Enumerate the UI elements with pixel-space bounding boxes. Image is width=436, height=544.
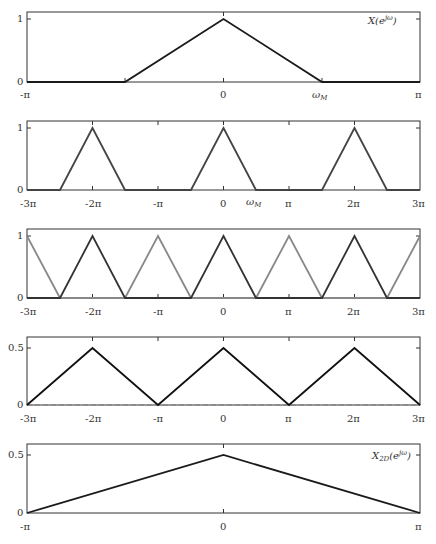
ytick-label: 0.5: [8, 342, 24, 353]
xtick-label: -π: [20, 89, 30, 100]
xtick-label-omega-m: ωM: [312, 89, 328, 102]
panel-1-original-spectrum: 1 0 -π 0 ωM π X(ejω): [17, 12, 422, 102]
xtick-label: 0: [220, 521, 226, 532]
figure: 1 0 -π 0 ωM π X(ejω) 1 0 -3π -2π -π 0 ωM…: [0, 0, 436, 544]
xtick-label: -π: [153, 413, 163, 424]
xtick-label: 0: [220, 306, 226, 317]
function-label: X(ejω): [367, 14, 397, 26]
xtick-label: -2π: [85, 306, 102, 317]
xtick-label: -3π: [20, 306, 37, 317]
original-spectrum-curve: [27, 236, 420, 298]
spectrum-curve: [27, 19, 420, 82]
xtick-label: 0: [220, 89, 226, 100]
xtick-label: -π: [153, 306, 163, 317]
xtick-label: π: [285, 198, 292, 209]
ytick-label: 0: [17, 292, 23, 303]
xtick-label: -3π: [20, 198, 37, 209]
xtick-label: π: [415, 89, 422, 100]
panel-4-downsampled-periodic: 0.5 0 -3π -2π -π 0 π 2π 3π: [8, 337, 425, 424]
ytick-label: 0: [17, 76, 23, 87]
xtick-label-omega-m: ωM: [246, 196, 262, 209]
panel-3-overlapping-spectra: 1 0 -3π -2π -π 0 π 2π 3π: [17, 229, 425, 317]
xtick-label: 0: [220, 198, 226, 209]
panel-2-periodic-spectrum: 1 0 -3π -2π -π 0 ωM π 2π 3π: [17, 121, 425, 209]
xtick-label: -3π: [20, 413, 37, 424]
ytick-label: 1: [17, 230, 23, 241]
ytick-label: 0: [17, 399, 23, 410]
spectrum-curve: [27, 348, 420, 405]
xtick-label: 3π: [412, 306, 425, 317]
spectrum-curve: [27, 128, 420, 190]
ytick-label: 0: [17, 507, 23, 518]
shifted-spectrum-curve: [27, 236, 420, 298]
ytick-label: 0: [17, 184, 23, 195]
panel-5-downsampled-spectrum: 0.5 0 -π 0 π X2D(ejω): [8, 444, 422, 532]
spectrum-curve: [27, 455, 420, 513]
ytick-label: 0.5: [8, 449, 24, 460]
ytick-label: 1: [17, 13, 23, 24]
plot-frame: [27, 229, 420, 298]
xtick-label: π: [285, 306, 292, 317]
xtick-label: π: [415, 521, 422, 532]
plot-frame: [27, 121, 420, 190]
ytick-label: 1: [17, 122, 23, 133]
xtick-label: π: [285, 413, 292, 424]
xtick-label: 2π: [347, 413, 360, 424]
xtick-label: -π: [153, 198, 163, 209]
xtick-label: -2π: [85, 198, 102, 209]
xtick-label: 2π: [347, 198, 360, 209]
xtick-label: 2π: [347, 306, 360, 317]
plot-frame: [27, 12, 420, 82]
xtick-label: -π: [20, 521, 30, 532]
xtick-label: 3π: [412, 413, 425, 424]
xtick-label: 3π: [412, 198, 425, 209]
xtick-label: -2π: [85, 413, 102, 424]
function-label: X2D(ejω): [371, 449, 411, 463]
xtick-label: 0: [220, 413, 226, 424]
